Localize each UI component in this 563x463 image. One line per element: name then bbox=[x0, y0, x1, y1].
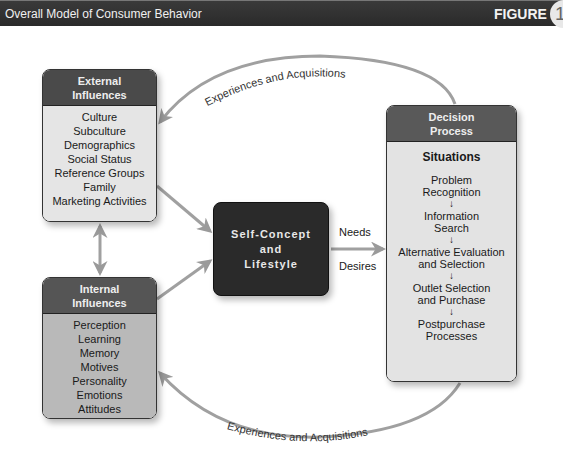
self-concept-line3: Lifestyle bbox=[231, 257, 311, 272]
external-title-line2: Influences bbox=[43, 88, 156, 102]
step-line: Information bbox=[387, 210, 516, 222]
down-arrow-icon: ↓ bbox=[387, 234, 516, 246]
list-item: Personality bbox=[43, 374, 156, 388]
down-arrow-icon: ↓ bbox=[387, 270, 516, 282]
list-item: Emotions bbox=[43, 388, 156, 402]
step-line: and Purchase bbox=[387, 294, 516, 306]
step-line: Processes bbox=[387, 330, 516, 342]
list-item: Perception bbox=[43, 318, 156, 332]
step-problem-recognition: Problem Recognition bbox=[387, 174, 516, 198]
decision-process-steps: Situations Problem Recognition ↓ Informa… bbox=[387, 142, 516, 382]
internal-title-line2: Influences bbox=[43, 296, 156, 310]
self-concept-box: Self-Concept and Lifestyle bbox=[213, 202, 329, 296]
step-line: Recognition bbox=[387, 186, 516, 198]
bottom-arc-label: Experiences and Acquisitions bbox=[226, 419, 369, 443]
decision-title-line1: Decision bbox=[387, 110, 516, 124]
list-item: Culture bbox=[43, 110, 156, 124]
decision-title-line2: Process bbox=[387, 124, 516, 138]
list-item: Subculture bbox=[43, 124, 156, 138]
external-influences-list: Culture Subculture Demographics Social S… bbox=[43, 106, 156, 222]
down-arrow-icon: ↓ bbox=[387, 306, 516, 318]
list-item: Reference Groups bbox=[43, 166, 156, 180]
list-item: Marketing Activities bbox=[43, 194, 156, 208]
self-concept-line1: Self-Concept bbox=[231, 227, 311, 242]
step-line: Problem bbox=[387, 174, 516, 186]
step-line: Alternative Evaluation bbox=[387, 246, 516, 258]
external-influences-box: External Influences Culture Subculture D… bbox=[42, 69, 157, 222]
down-arrow-icon: ↓ bbox=[387, 198, 516, 210]
list-item: Learning bbox=[43, 332, 156, 346]
step-postpurchase-processes: Postpurchase Processes bbox=[387, 318, 516, 342]
step-line: Postpurchase bbox=[387, 318, 516, 330]
decision-process-header: Decision Process bbox=[387, 106, 516, 142]
list-item: Family bbox=[43, 180, 156, 194]
internal-to-self-arrow bbox=[157, 261, 210, 299]
step-outlet-selection: Outlet Selection and Purchase bbox=[387, 282, 516, 306]
list-item: Motives bbox=[43, 360, 156, 374]
internal-influences-list: Perception Learning Memory Motives Perso… bbox=[43, 314, 156, 419]
self-concept-label: Self-Concept and Lifestyle bbox=[231, 227, 311, 272]
bottom-feedback-arc bbox=[160, 373, 460, 437]
list-item: Attitudes bbox=[43, 402, 156, 416]
step-line: Outlet Selection bbox=[387, 282, 516, 294]
step-information-search: Information Search bbox=[387, 210, 516, 234]
decision-process-box: Decision Process Situations Problem Reco… bbox=[386, 105, 517, 382]
internal-influences-header: Internal Influences bbox=[43, 278, 156, 314]
needs-label: Needs bbox=[339, 226, 371, 238]
desires-label: Desires bbox=[339, 260, 376, 272]
internal-title-line1: Internal bbox=[43, 282, 156, 296]
self-concept-line2: and bbox=[231, 242, 311, 257]
list-item: Demographics bbox=[43, 138, 156, 152]
list-item: Social Status bbox=[43, 152, 156, 166]
step-alternative-evaluation: Alternative Evaluation and Selection bbox=[387, 246, 516, 270]
external-influences-header: External Influences bbox=[43, 70, 156, 106]
internal-influences-box: Internal Influences Perception Learning … bbox=[42, 277, 157, 419]
situations-label: Situations bbox=[387, 150, 516, 164]
external-title-line1: External bbox=[43, 74, 156, 88]
list-item: Memory bbox=[43, 346, 156, 360]
step-line: and Selection bbox=[387, 258, 516, 270]
step-line: Search bbox=[387, 222, 516, 234]
external-to-self-arrow bbox=[157, 186, 210, 231]
